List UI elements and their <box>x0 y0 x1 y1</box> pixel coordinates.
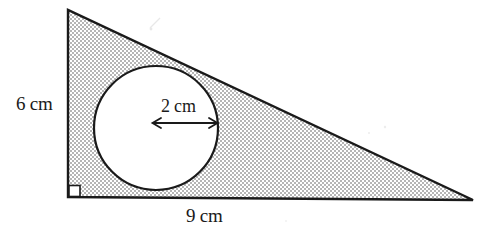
figure-canvas <box>0 0 500 233</box>
right-angle-marker <box>69 186 80 197</box>
geometry-figure: 6 cm 9 cm 2 cm <box>0 0 500 233</box>
height-dimension-label: 6 cm <box>16 94 53 113</box>
circle-shape <box>94 66 218 190</box>
base-dimension-label: 9 cm <box>186 206 223 225</box>
radius-dimension-label: 2 cm <box>161 97 196 115</box>
